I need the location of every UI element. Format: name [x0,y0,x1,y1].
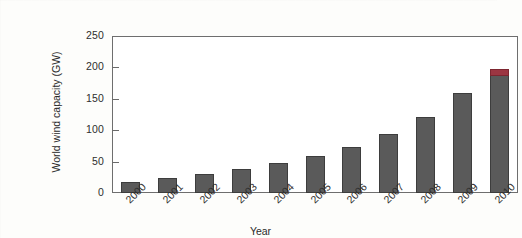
y-axis-tick [112,162,119,163]
bar [490,69,509,193]
y-axis-title-wrapper: World wind capacity (GW) [48,16,64,213]
bar-chart-figure: World wind capacity (GW) 050100150200250… [40,16,457,222]
y-axis-tick-label: 250 [64,29,104,41]
y-axis-title: World wind capacity (GW) [50,22,62,202]
x-axis-title-text: Year [250,225,271,237]
y-axis-tick-label: 100 [64,123,104,135]
y-axis-tick-label: 150 [64,92,104,104]
bar [453,93,472,193]
x-axis-title: Year [40,225,522,237]
plot-area [112,36,518,193]
y-axis-tick-label: 0 [64,186,104,198]
bar-highlight-segment [490,69,509,77]
y-axis-tick-label: 50 [64,155,104,167]
y-axis-tick-label: 200 [64,60,104,72]
y-axis-tick [112,67,119,68]
y-axis-tick [112,99,119,100]
y-axis-tick [112,130,119,131]
